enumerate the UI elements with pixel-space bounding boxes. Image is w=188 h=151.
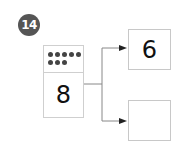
part-box-top: 6: [128, 29, 171, 70]
arrow-right-icon: [119, 45, 127, 51]
part-box-bottom-answer[interactable]: [128, 100, 171, 141]
arrow-right-icon: [119, 118, 127, 124]
